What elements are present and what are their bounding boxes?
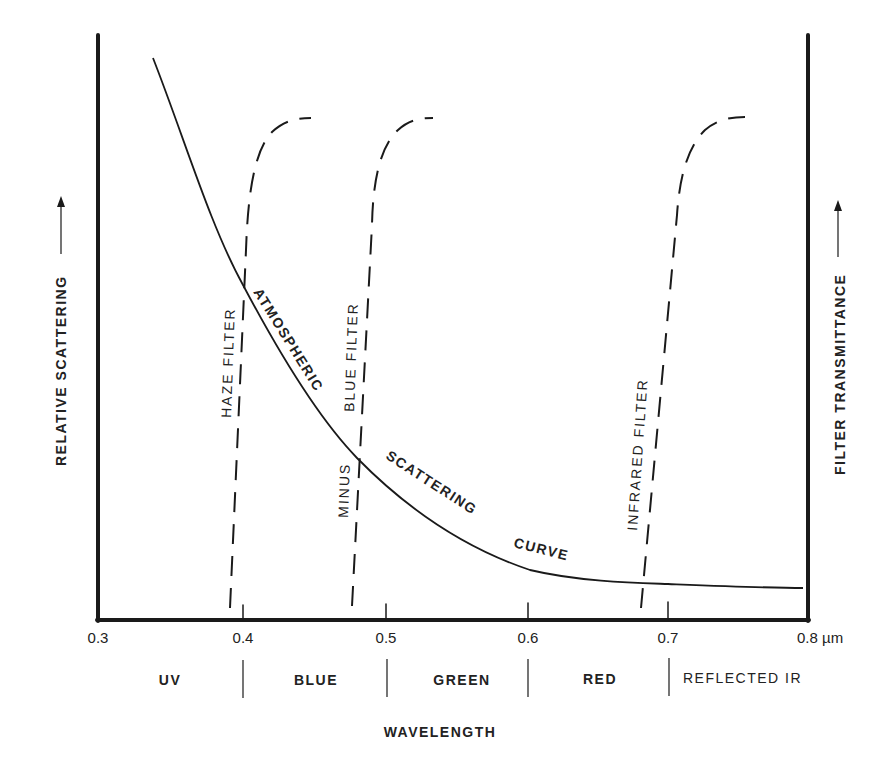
y-right-arrow-icon [834,200,842,257]
y-right-title: FILTER TRANSMITTANCE [832,274,848,475]
atmospheric-scattering-curve [153,58,803,588]
band-green: GREEN [433,672,490,688]
haze-filter-label: HAZE FILTER [218,307,238,418]
scattering-chart: ATMOSPHERIC SCATTERING CURVE HAZE FILTER… [0,0,895,775]
curve-label-scattering: SCATTERING [383,447,480,518]
band-reflected-ir: REFLECTED IR [683,670,802,686]
minus-blue-filter-curve [352,118,433,606]
x-tick-label-0.4: 0.4 [233,629,254,646]
x-tick-label-0.3: 0.3 [88,629,109,646]
band-blue: BLUE [294,672,338,688]
y-left-arrow-icon [57,196,65,254]
x-tick-label-0.5: 0.5 [376,629,397,646]
minus-label: MINUS [335,462,353,518]
infrared-filter-curve [641,117,745,608]
band-uv: UV [159,672,181,688]
x-tick-label-0.7: 0.7 [658,629,679,646]
x-tick-label-0.6: 0.6 [518,629,539,646]
x-tick-label-0.8: 0.8 µm [797,629,843,646]
x-axis-title: WAVELENGTH [384,724,497,740]
blue-filter-label: BLUE FILTER [341,302,361,412]
curve-label-curve: CURVE [512,534,570,563]
curve-label-atmospheric: ATMOSPHERIC [250,285,327,394]
infrared-filter-label: INFRARED FILTER [624,378,651,531]
y-left-title: RELATIVE SCATTERING [53,275,69,466]
band-red: RED [583,671,617,687]
axes [97,35,809,621]
